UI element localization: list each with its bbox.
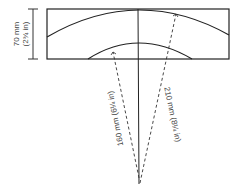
height-in-text: (2¾ in) [21,21,30,46]
outer-radius-label: 210 mm (8¼ in) [162,86,183,143]
arc-layout-diagram: 70 mm (2¾ in) 160 mm (6¼ in) 210 mm (8¼ … [0,0,234,195]
inner-arc [88,43,192,59]
svg-text:160 mm (6¼ in): 160 mm (6¼ in) [106,90,126,147]
center-line [138,9,139,184]
height-dimension-label: 70 mm (2¾ in) [12,21,30,46]
svg-text:210 mm (8¼ in): 210 mm (8¼ in) [162,86,183,143]
inner-radius-label: 160 mm (6¼ in) [106,90,126,147]
height-mm-text: 70 mm [12,21,21,46]
